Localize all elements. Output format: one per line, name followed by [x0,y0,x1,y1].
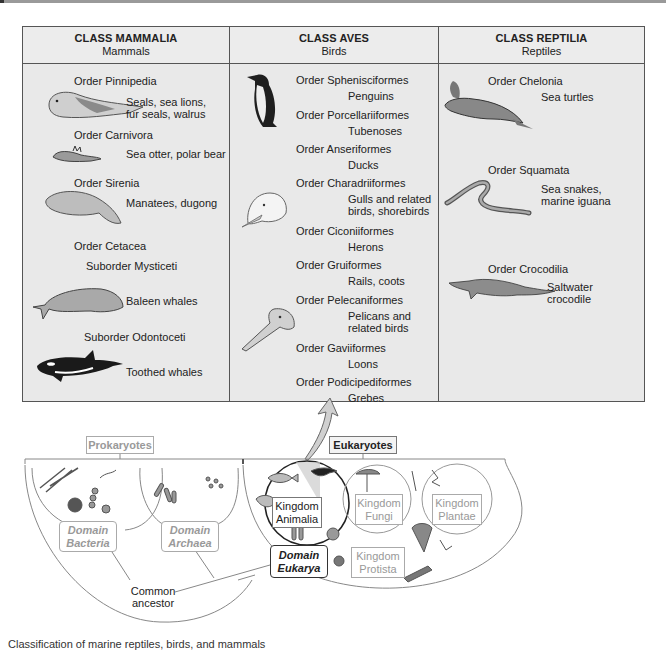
order-label: Order Cetacea [74,240,146,252]
order-label: Order Charadriiformes [296,177,405,189]
column-header-mammalia: CLASS MAMMALIA Mammals [23,27,229,64]
order-description: birds, shorebirds [348,205,429,217]
kingdom-name: Animalia [273,513,321,526]
orca-icon [35,350,125,384]
manatee-icon [43,187,125,227]
suborder-description: Toothed whales [126,366,202,378]
kingdom-name: Protista [352,563,404,576]
suborder-description: Baleen whales [126,295,198,307]
column-header-reptilia: CLASS REPTILIA Reptiles [439,27,644,64]
column-reptilia: CLASS REPTILIA Reptiles Order Chelonia S… [439,27,644,401]
order-description: Tubenoses [348,125,402,137]
prokaryotes-label: Prokaryotes [86,436,154,454]
class-title: CLASS MAMMALIA [23,32,229,44]
suborder-label: Suborder Mysticeti [86,260,177,272]
domain-word: Domain [271,549,327,562]
order-label: Order Carnivora [74,129,153,141]
sea-turtle-icon [443,79,535,131]
order-label: Order Podicipediformes [296,376,412,388]
domain-name: Eukarya [271,562,327,575]
column-mammalia: CLASS MAMMALIA Mammals Order Pinnipedia … [23,27,230,401]
pelican-head-icon [240,305,296,355]
eukaryotes-label: Eukaryotes [329,436,397,454]
sea-otter-icon [51,145,103,163]
class-subtitle: Birds [230,45,438,57]
order-label: Order Squamata [488,164,569,176]
order-description: Sea otter, polar bear [126,148,226,160]
order-label: Order Ciconiiformes [296,225,394,237]
common-ancestor-label: Common ancestor [127,585,179,609]
class-subtitle: Mammals [23,45,229,57]
order-description: Penguins [348,90,394,102]
domain-archaea-label: Domain Archaea [161,521,219,552]
order-description: marine iguana [541,195,611,207]
order-label: Order Anseriformes [296,143,391,155]
order-label: Order Porcellariiformes [296,109,409,121]
class-title: CLASS AVES [230,32,438,44]
kingdom-plantae-label: Kingdom Plantae [432,494,482,525]
domain-name: Archaea [162,537,218,550]
kingdom-word: Kingdom [356,497,402,510]
order-description: related birds [348,322,409,334]
top-strip-mark [0,0,4,3]
order-description: Herons [348,241,383,253]
order-description: Sea turtles [541,91,594,103]
suborder-label: Suborder Odontoceti [84,331,186,343]
order-label: Order Sphenisciformes [296,74,409,86]
domain-name: Bacteria [60,537,116,550]
kingdom-name: Plantae [433,510,481,523]
penguin-icon [245,71,281,129]
crocodile-icon [447,275,557,303]
order-label: Order Crocodilia [488,263,568,275]
classification-table: CLASS MAMMALIA Mammals Order Pinnipedia … [22,26,645,402]
domain-word: Domain [162,524,218,537]
order-description: Seals, sea lions, [126,96,206,108]
root-line-2: ancestor [127,597,179,609]
gull-head-icon [240,189,290,229]
kingdom-name: Fungi [356,510,402,523]
top-strip [0,0,666,3]
order-description: Sea snakes, [541,183,602,195]
order-label: Order Pinnipedia [74,75,157,87]
domain-bacteria-label: Domain Bacteria [59,521,117,552]
kingdom-word: Kingdom [352,550,404,563]
figure-caption: Classification of marine reptiles, birds… [8,638,265,650]
kingdom-protista-label: Kingdom Protista [351,547,405,578]
order-description: Loons [348,358,378,370]
column-aves: CLASS AVES Birds Order Sphenisciformes P… [230,27,439,401]
order-description: Gulls and related [348,193,431,205]
order-description: Rails, coots [348,275,405,287]
order-description: Ducks [348,159,379,171]
class-title: CLASS REPTILIA [439,32,644,44]
class-subtitle: Reptiles [439,45,644,57]
order-label: Order Gruiformes [296,259,382,271]
tree-of-life-diagram [0,395,666,625]
kingdom-word: Kingdom [433,497,481,510]
kingdom-fungi-label: Kingdom Fungi [355,494,403,525]
order-description: Pelicans and [348,310,411,322]
domain-word: Domain [60,524,116,537]
kingdom-animalia-label: Kingdom Animalia [272,497,322,528]
sea-snake-icon [443,177,533,217]
column-header-aves: CLASS AVES Birds [230,27,438,64]
kingdom-word: Kingdom [273,500,321,513]
baleen-whale-icon [31,285,125,327]
order-label: Order Gaviiformes [296,342,386,354]
order-label: Order Pelecaniformes [296,294,403,306]
order-description: Manatees, dugong [126,197,217,209]
domain-eukarya-label: Domain Eukarya [270,545,328,578]
order-description: Saltwater [547,281,593,293]
order-description: crocodile [547,293,591,305]
order-description: fur seals, walrus [126,108,205,120]
root-line-1: Common [127,585,179,597]
